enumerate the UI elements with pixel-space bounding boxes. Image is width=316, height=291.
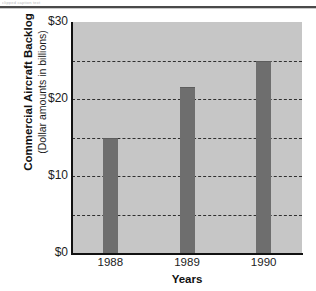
y-axis-line xyxy=(71,22,73,255)
y-axis-title: Commercial Aircraft Backlog (Dollar amou… xyxy=(18,0,52,192)
x-tick-label-1989: 1989 xyxy=(157,256,217,268)
x-tick-label-1988: 1988 xyxy=(80,256,140,268)
y-axis-title-main: Commercial Aircraft Backlog xyxy=(22,13,35,170)
plot-area xyxy=(72,22,302,253)
x-axis-line xyxy=(71,253,303,255)
y-axis-title-subtitle: (Dollar amounts in billions) xyxy=(36,30,48,154)
y-tick-label-0: $0 xyxy=(2,245,68,259)
x-axis-tick-labels: 198819891990 xyxy=(72,256,302,272)
bar-1989 xyxy=(180,87,195,254)
x-tick-label-1990: 1990 xyxy=(234,256,294,268)
x-axis-title: Years xyxy=(72,273,302,285)
chart-figure: clipped caption text $0$10$20$30 Commerc… xyxy=(0,0,316,291)
bar-1990 xyxy=(256,61,271,255)
bar-1988 xyxy=(103,138,118,255)
